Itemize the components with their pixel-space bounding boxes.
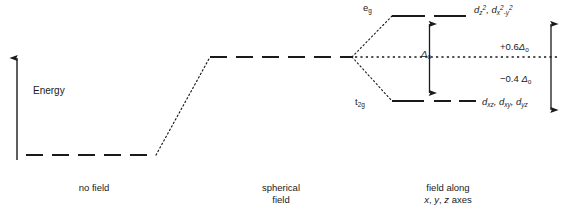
orbital-labels-eg: dz2, dx2-y2 — [474, 4, 513, 16]
caption-octahedral-field-line2: x, y, z axes — [404, 194, 492, 206]
caption-no-field-line1: no field — [60, 182, 128, 194]
connector-spherical-to-eg — [352, 16, 392, 57]
offset-lower-unit: Δ — [521, 73, 527, 84]
term-symbol-eg-sub: g — [368, 7, 372, 14]
caption-spherical-field-line2: field — [245, 194, 317, 206]
caption-no-field: no field — [60, 182, 128, 194]
offset-label-lower: −0.4 Δo — [500, 73, 531, 85]
offset-upper-value: 0.6 — [506, 41, 519, 52]
term-symbol-t2g: t2g — [355, 96, 365, 108]
energy-axis-label: Energy — [33, 85, 65, 98]
orbital-labels-t2g: dxz, dxy, dyz — [482, 96, 528, 108]
offset-label-upper: +0.6Δo — [500, 41, 529, 53]
term-symbol-t2g-sub: 2g — [358, 101, 365, 108]
caption-spherical-field: spherical field — [245, 182, 317, 206]
delta-subscript: o — [427, 53, 431, 60]
offset-upper-unit-sub: o — [525, 46, 529, 53]
connector-spherical-to-t2g — [352, 57, 392, 101]
crystal-field-splitting-figure: Energy eg t2g dz2, dx2-y2 dxz, dxy, dyz … — [0, 0, 574, 218]
offset-lower-unit-sub: o — [528, 78, 532, 85]
caption-octahedral-field-line1: field along — [404, 182, 492, 194]
offset-lower-value: 0.4 — [506, 73, 519, 84]
delta-o-label: Δo — [421, 48, 431, 60]
term-symbol-eg: eg — [363, 2, 372, 14]
caption-spherical-field-line1: spherical — [245, 182, 317, 194]
caption-octahedral-field: field along x, y, z axes — [404, 182, 492, 206]
connector-no-field-to-spherical — [156, 57, 210, 155]
